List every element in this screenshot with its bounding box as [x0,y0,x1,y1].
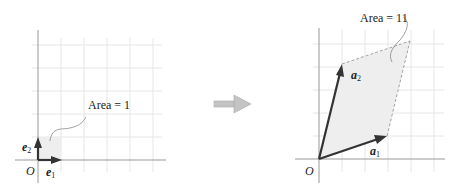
left-origin-label: O [26,164,35,178]
unit-square [38,137,61,160]
diagram: Area = 1 O e1 e2 Area = 11 O a1 a2 [0,0,458,189]
right-origin-label: O [305,164,314,178]
right-arrow-icon [214,95,251,113]
e2-label: e2 [22,140,31,155]
right-area-label: Area = 11 [360,11,408,25]
e1-label: e1 [46,165,55,180]
a1-label: a1 [370,144,380,159]
left-area-label: Area = 1 [88,98,130,112]
